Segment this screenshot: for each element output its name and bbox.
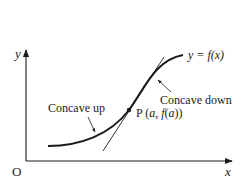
concave-down-arrow — [158, 80, 171, 92]
concave-up-arrow — [88, 117, 95, 132]
concave-up-label: Concave up — [48, 101, 105, 115]
point-open: ( — [142, 106, 149, 120]
inflection-point — [127, 108, 131, 112]
x-axis-label: x — [224, 164, 231, 179]
curve-label-arg: (x) — [211, 48, 224, 62]
concave-down-label: Concave down — [160, 93, 232, 107]
concavity-diagram: y x O y = f(x) P (a, f(a)) Concave up Co… — [0, 0, 247, 183]
curve-label: y = f(x) — [187, 48, 224, 62]
point-close: )) — [175, 106, 183, 120]
y-axis-label: y — [13, 46, 21, 61]
point-label: P (a, f(a)) — [136, 106, 183, 120]
origin-label: O — [12, 164, 21, 179]
curve-label-y: y = — [187, 48, 207, 62]
tangent-line — [103, 57, 164, 151]
